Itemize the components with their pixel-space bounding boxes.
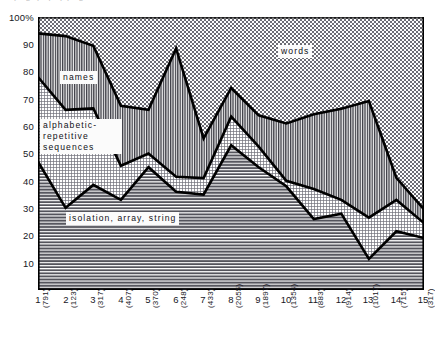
- band-label-alphabetic-repetitive-sequences: alphabetic- repetitive sequences: [40, 119, 122, 154]
- x-tick-count: (914): [344, 288, 353, 308]
- chart-figure: p g p p pp g 100% 90 80 70 60 50 40 30 2…: [0, 0, 435, 340]
- y-tick-label: 30: [0, 203, 34, 214]
- x-tick-count: (883): [316, 288, 325, 308]
- x-tick-count: (791): [41, 288, 50, 308]
- x-tick-count: (1017): [371, 284, 380, 308]
- x-tick-count: (2055): [234, 284, 243, 308]
- y-tick-label: 50: [0, 148, 34, 159]
- x-tick-count: (407): [124, 288, 133, 308]
- band-label-names: names: [60, 71, 97, 84]
- x-tick-count: (1897): [261, 284, 270, 308]
- clipped-caption-descenders: p g p p pp g: [0, 0, 435, 6]
- x-tick-count: (370): [151, 288, 160, 308]
- y-tick-label: 60: [0, 121, 34, 132]
- band-label-alphabetic-line-2: repetitive: [43, 131, 119, 142]
- y-tick-label: 90: [0, 39, 34, 50]
- y-tick-label: 20: [0, 230, 34, 241]
- x-tick-count: (715): [399, 288, 408, 308]
- x-tick-count: (248): [179, 288, 188, 308]
- band-label-words: words: [278, 45, 312, 58]
- band-label-isolation-array-string: isolation, array, string: [66, 212, 179, 225]
- y-tick-label: 40: [0, 176, 34, 187]
- y-tick-label: 100%: [0, 12, 34, 23]
- y-tick-label: 10: [0, 258, 34, 269]
- x-tick-count: (123): [69, 288, 78, 308]
- band-label-alphabetic-line-1: alphabetic-: [43, 120, 119, 131]
- x-tick-count: (317): [426, 288, 435, 308]
- x-tick-count: (1354): [289, 284, 298, 308]
- plot-area: words names alphabetic- repetitive seque…: [38, 17, 424, 290]
- clipped-caption-text: p g p p pp g: [14, 0, 86, 1]
- y-tick-label: 70: [0, 94, 34, 105]
- x-tick-count: (433): [206, 288, 215, 308]
- band-label-alphabetic-line-3: sequences: [43, 142, 119, 153]
- x-tick-count: (317): [96, 288, 105, 308]
- y-tick-label: 80: [0, 66, 34, 77]
